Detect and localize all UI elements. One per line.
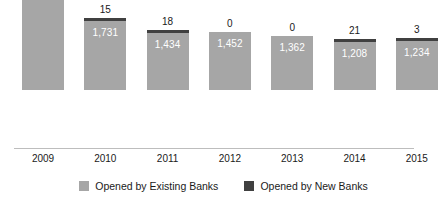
x-axis-tick-label: 2014 (328, 153, 382, 164)
bar-value-label-existing: 1,362 (271, 42, 313, 53)
legend-label-existing: Opened by Existing Banks (95, 180, 218, 192)
plot-area: 2,800811,731151,434181,45201,36201,20821… (0, 0, 447, 149)
bar-value-label-new: 0 (265, 22, 319, 33)
x-axis-tick-label: 2009 (16, 153, 70, 164)
bar-group: 1,4520 (209, 32, 251, 90)
bar-group: 1,43418 (147, 30, 189, 90)
bar-value-label-new: 15 (78, 4, 132, 15)
bar-group: 2,80081 (22, 0, 64, 90)
bar-group: 1,20821 (334, 39, 376, 90)
legend-swatch-icon-new (244, 181, 254, 191)
bar-value-label-new: 3 (390, 24, 444, 35)
legend-item-new-banks: Opened by New Banks (244, 180, 367, 192)
bar-value-label-existing: 1,208 (334, 48, 376, 59)
x-axis-tick-label: 2012 (203, 153, 257, 164)
legend-label-new: Opened by New Banks (260, 180, 367, 192)
legend-swatch-icon-existing (79, 181, 89, 191)
bar-group: 1,73115 (84, 18, 126, 90)
chart-legend: Opened by Existing Banks Opened by New B… (0, 180, 447, 192)
bar-segment-new-banks (396, 38, 438, 41)
bar-value-label-new: 18 (141, 16, 195, 27)
bar-value-label-existing: 1,731 (84, 27, 126, 38)
x-axis-tick-label: 2015 (390, 153, 444, 164)
bar-segment-new-banks (334, 39, 376, 42)
bar-value-label-existing: 1,234 (396, 47, 438, 58)
bar-group: 1,2343 (396, 38, 438, 90)
bar-value-label-existing: 1,434 (147, 39, 189, 50)
stacked-bar-chart: 2,800811,731151,434181,45201,36201,20821… (0, 0, 447, 207)
bar-group: 1,3620 (271, 36, 313, 90)
x-axis-tick-label: 2010 (78, 153, 132, 164)
bar-value-label-new: 21 (328, 25, 382, 36)
x-axis-tick-label: 2013 (265, 153, 319, 164)
bar-segment-existing-banks (22, 0, 64, 90)
bar-segment-new-banks (147, 30, 189, 33)
legend-item-existing-banks: Opened by Existing Banks (79, 180, 218, 192)
bar-value-label-existing: 1,452 (209, 38, 251, 49)
bar-segment-new-banks (84, 18, 126, 21)
x-axis-line (14, 148, 414, 149)
x-axis-tick-label: 2011 (141, 153, 195, 164)
bar-value-label-new: 0 (203, 18, 257, 29)
